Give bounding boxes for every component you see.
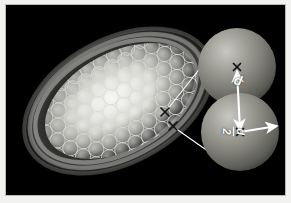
radius-label-denominator: 2 <box>221 128 232 134</box>
astronomy-figure-plate: d d 2 <box>6 5 285 195</box>
figure-scene <box>6 5 285 195</box>
figure-frame: d d 2 <box>0 0 291 203</box>
radius-label-numerator: d <box>235 128 246 135</box>
fraction-bar-icon <box>233 127 234 136</box>
galaxy-graphic <box>6 5 248 195</box>
radius-label: d 2 <box>221 127 246 136</box>
